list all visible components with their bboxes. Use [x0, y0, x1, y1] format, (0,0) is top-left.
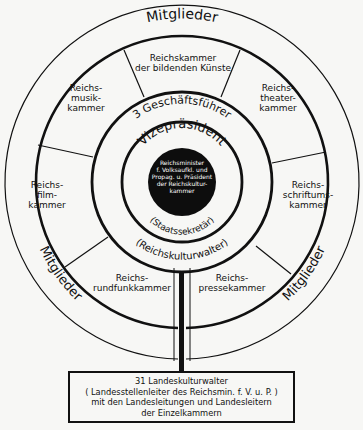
chamber-theater: Reichs- theater- kammer — [248, 83, 308, 113]
chamber-musik: Reichs- musik- kammer — [56, 83, 116, 113]
chamber-film: Reichs- film- kammer — [22, 180, 72, 210]
center-reichsminister: Reichsminister f. Volksaufkl. und Propag… — [150, 159, 214, 194]
landeskulturwalter-box: 31 Landeskulturwalter ( Landesstellenlei… — [68, 371, 295, 423]
chamber-rundfunk: Reichs- rundfunkkammer — [88, 273, 176, 293]
connector-stem — [179, 272, 184, 372]
members-label-top: Mitglieder — [145, 6, 220, 26]
chamber-schrifttum: Reichs- schriftums- kammer — [276, 180, 340, 210]
landeskulturwalter-text: 31 Landeskulturwalter ( Landesstellenlei… — [70, 373, 293, 418]
divider — [38, 145, 93, 157]
members-label-bottom-left: Mitglieder — [37, 243, 86, 304]
chamber-presse: Reichs- pressekammer — [190, 273, 274, 293]
divider — [272, 152, 326, 163]
chamber-bildende-kuenste: Reichskammer der bildenden Künste — [128, 53, 238, 73]
divider — [256, 246, 291, 274]
members-label-bottom-right: Mitglieder — [279, 243, 328, 304]
divider — [65, 237, 108, 267]
